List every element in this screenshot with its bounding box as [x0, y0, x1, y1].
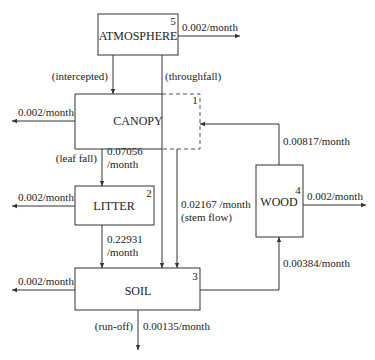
- atmosphere-box: ATMOSPHERE 5: [98, 14, 178, 55]
- litter-soil-rate-1: 0.22931: [107, 233, 143, 245]
- atmosphere-label: ATMOSPHERE: [99, 29, 178, 43]
- wood-out-rate: 0.002/month: [307, 190, 363, 202]
- canopy-number: 1: [192, 94, 198, 106]
- canopy-label: CANOPY: [113, 114, 163, 128]
- litter-label: LITTER: [93, 199, 134, 213]
- litter-soil-rate-2: /month: [107, 246, 139, 258]
- wood-number: 4: [295, 184, 301, 196]
- wood-canopy-arrow: [200, 124, 279, 165]
- soil-box: SOIL 3: [75, 268, 200, 310]
- stem-flow-label: (stem flow): [181, 211, 232, 224]
- soil-wood-rate: 0.00384/month: [283, 257, 350, 269]
- litter-out-rate: 0.002/month: [18, 191, 74, 203]
- leaf-fall-rate-1: 0.07056: [107, 145, 143, 157]
- compartment-flow-diagram: ATMOSPHERE 5 0.002/month (intercepted) (…: [0, 0, 375, 360]
- run-off-label: (run-off): [95, 320, 134, 333]
- wood-label: WOOD: [260, 195, 298, 209]
- soil-out-rate: 0.002/month: [18, 275, 74, 287]
- wood-box: WOOD 4: [256, 165, 303, 237]
- soil-label: SOIL: [125, 284, 152, 298]
- atmosphere-number: 5: [170, 15, 176, 27]
- soil-number: 3: [192, 270, 198, 282]
- run-off-rate: 0.00135/month: [143, 320, 210, 332]
- canopy-out-rate: 0.002/month: [18, 106, 74, 118]
- throughfall-label: (throughfall): [165, 70, 222, 83]
- soil-wood-arrow: [200, 237, 279, 290]
- leaf-fall-rate-2: /month: [107, 158, 139, 170]
- intercepted-label: (intercepted): [52, 70, 109, 83]
- atmosphere-out-rate: 0.002/month: [182, 21, 238, 33]
- wood-canopy-rate: 0.00817/month: [283, 135, 350, 147]
- stem-flow-rate: 0.02167 /month: [181, 198, 251, 210]
- canopy-box: CANOPY 1: [75, 94, 200, 149]
- litter-number: 2: [146, 187, 152, 199]
- litter-box: LITTER 2: [75, 186, 154, 225]
- leaf-fall-label: (leaf fall): [56, 152, 98, 165]
